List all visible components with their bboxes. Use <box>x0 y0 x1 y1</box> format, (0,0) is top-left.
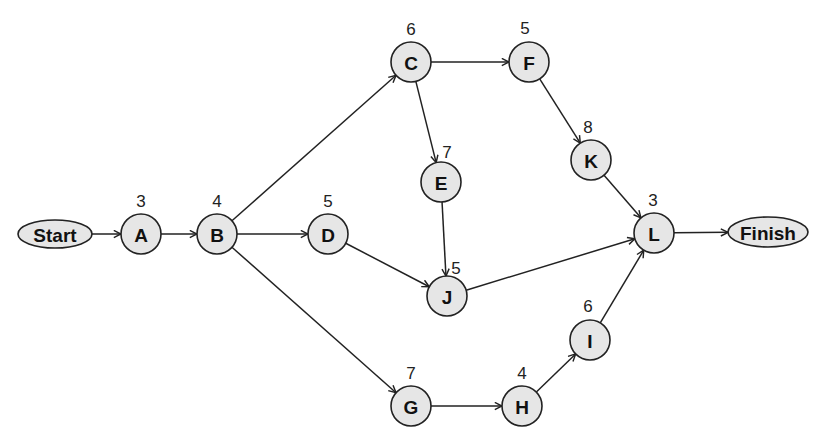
node-a: A3 <box>121 192 161 254</box>
duration-label-d: 5 <box>323 192 332 211</box>
duration-label-k: 8 <box>583 118 592 137</box>
node-h: H4 <box>502 364 542 426</box>
node-k: K8 <box>571 118 611 180</box>
edge-d-to-j <box>346 243 430 287</box>
duration-label-h: 4 <box>517 364 526 383</box>
edges-layer <box>92 62 728 406</box>
duration-label-a: 3 <box>136 192 145 211</box>
node-label-h: H <box>515 397 529 418</box>
edge-c-to-e <box>416 81 436 162</box>
node-e: E7 <box>421 143 461 202</box>
node-finish: Finish <box>728 217 808 247</box>
node-label-d: D <box>321 225 335 246</box>
edge-b-to-c <box>232 75 396 220</box>
node-b: B4 <box>197 192 237 254</box>
nodes-layer: StartA3B4C6D5E7F5G7H4I6J5K8L3Finish <box>18 19 808 426</box>
edge-j-to-l <box>466 239 635 290</box>
edge-k-to-l <box>604 175 641 218</box>
node-label-finish: Finish <box>740 223 796 244</box>
node-j: J5 <box>427 259 467 316</box>
node-label-start: Start <box>33 225 77 246</box>
node-label-g: G <box>404 397 419 418</box>
edge-b-to-g <box>232 247 396 392</box>
node-i: I6 <box>570 297 610 360</box>
node-label-c: C <box>404 53 418 74</box>
node-label-e: E <box>435 173 448 194</box>
node-label-a: A <box>134 225 148 246</box>
edge-e-to-j <box>442 202 446 276</box>
node-label-i: I <box>587 331 592 352</box>
node-g: G7 <box>391 364 431 426</box>
duration-label-i: 6 <box>583 297 592 316</box>
node-label-k: K <box>584 151 598 172</box>
edge-f-to-k <box>540 79 581 143</box>
duration-label-f: 5 <box>520 19 529 38</box>
duration-label-g: 7 <box>406 364 415 383</box>
edge-i-to-l <box>600 250 643 323</box>
node-f: F5 <box>509 19 549 82</box>
edge-h-to-i <box>536 354 575 392</box>
activity-network-diagram: StartA3B4C6D5E7F5G7H4I6J5K8L3Finish <box>0 0 826 442</box>
node-label-l: L <box>648 224 660 245</box>
node-start: Start <box>18 220 92 248</box>
node-l: L3 <box>634 191 674 253</box>
node-c: C6 <box>391 20 431 82</box>
node-label-f: F <box>523 53 535 74</box>
duration-label-c: 6 <box>406 20 415 39</box>
duration-label-l: 3 <box>648 191 657 210</box>
node-label-b: B <box>210 225 224 246</box>
node-d: D5 <box>308 192 348 254</box>
duration-label-b: 4 <box>212 192 221 211</box>
duration-label-e: 7 <box>442 143 451 162</box>
node-label-j: J <box>442 287 453 308</box>
duration-label-j: 5 <box>451 259 460 278</box>
